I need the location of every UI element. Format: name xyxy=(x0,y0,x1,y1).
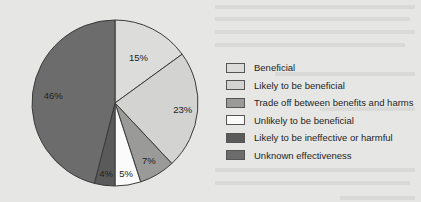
legend-label: Likely to be ineffective or harmful xyxy=(254,132,393,143)
legend-item-trade-off: Trade off between benefits and harms xyxy=(226,94,414,112)
slice-label: 5% xyxy=(119,168,133,179)
legend-item-likely-ineffective: Likely to be ineffective or harmful xyxy=(226,129,414,147)
legend-swatch xyxy=(226,80,245,90)
legend-item-likely-beneficial: Likely to be beneficial xyxy=(226,77,414,95)
legend-label: Beneficial xyxy=(254,62,295,73)
legend-item-beneficial: Beneficial xyxy=(226,59,414,77)
slice-label: 7% xyxy=(142,155,156,166)
legend-label: Likely to be beneficial xyxy=(254,80,345,91)
legend-label: Unlikely to be beneficial xyxy=(254,115,354,126)
chart-legend: Beneficial Likely to be beneficial Trade… xyxy=(226,59,414,164)
legend-swatch xyxy=(226,150,245,160)
legend-item-unlikely-beneficial: Unlikely to be beneficial xyxy=(226,112,414,130)
legend-label: Trade off between benefits and harms xyxy=(254,97,414,108)
legend-swatch xyxy=(226,63,245,73)
chart-page: 15%23%7%5%4%46% Beneficial Likely to be … xyxy=(0,0,421,202)
pie-chart: 15%23%7%5%4%46% xyxy=(31,13,201,193)
legend-swatch xyxy=(226,98,245,108)
pie-chart-svg: 15%23%7%5%4%46% xyxy=(31,13,201,193)
slice-label: 4% xyxy=(99,168,113,179)
slice-label: 15% xyxy=(129,52,149,63)
slice-label: 46% xyxy=(44,90,64,101)
legend-item-unknown-effectiveness: Unknown effectiveness xyxy=(226,147,414,165)
legend-swatch xyxy=(226,133,245,143)
legend-label: Unknown effectiveness xyxy=(254,150,352,161)
slice-label: 23% xyxy=(173,104,193,115)
legend-swatch xyxy=(226,115,245,125)
